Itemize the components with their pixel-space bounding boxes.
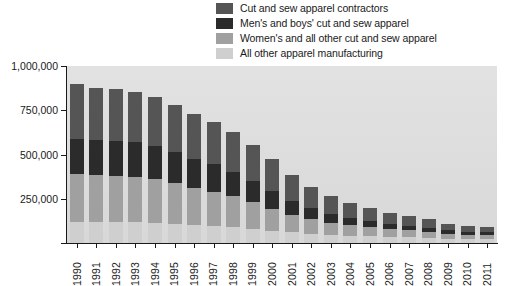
legend-item[interactable]: All other apparel manufacturing xyxy=(216,47,437,60)
stacked-bar[interactable] xyxy=(285,175,299,243)
bar-slot xyxy=(399,66,419,243)
bar-segment xyxy=(402,216,416,226)
bar-segment xyxy=(226,132,240,172)
legend-item-label: All other apparel manufacturing xyxy=(240,47,383,60)
legend-item[interactable]: Cut and sew apparel contractors xyxy=(216,2,437,15)
y-axis-tick xyxy=(61,199,67,200)
bar-slot xyxy=(106,66,126,243)
x-axis-tick xyxy=(233,243,234,248)
x-axis-label-slot: 1992 xyxy=(106,250,126,286)
stacked-bar[interactable] xyxy=(148,97,162,243)
stacked-bar[interactable] xyxy=(265,159,279,243)
x-axis-tick-label: 2007 xyxy=(404,250,415,286)
bar-segment xyxy=(109,141,123,176)
stacked-bar[interactable] xyxy=(422,219,436,243)
x-axis-line xyxy=(66,243,498,244)
bar-segment xyxy=(343,203,357,218)
x-axis-tick xyxy=(487,243,488,248)
stacked-bar[interactable] xyxy=(187,114,201,243)
legend-item[interactable]: Women's and all other cut and sew appare… xyxy=(216,32,437,45)
bar-slot xyxy=(184,66,204,243)
bar-segment xyxy=(383,229,397,237)
bar-slot xyxy=(438,66,458,243)
stacked-bar[interactable] xyxy=(480,227,494,243)
x-axis-tick-label: 2005 xyxy=(365,250,376,286)
stacked-bar[interactable] xyxy=(128,92,142,243)
stacked-bar[interactable] xyxy=(70,84,84,243)
legend-item-label: Men's and boys' cut and sew apparel xyxy=(240,17,409,30)
legend-swatch-icon xyxy=(216,48,233,59)
x-axis-tick-label: 2001 xyxy=(287,250,298,286)
legend-item[interactable]: Men's and boys' cut and sew apparel xyxy=(216,17,437,30)
bar-segment xyxy=(207,122,221,164)
bar-segment xyxy=(168,224,182,243)
x-axis-tick-label: 1995 xyxy=(169,250,180,286)
bar-slot xyxy=(145,66,165,243)
bar-segment xyxy=(304,208,318,219)
bar-slot xyxy=(360,66,380,243)
stacked-bar[interactable] xyxy=(402,216,416,243)
stacked-bar[interactable] xyxy=(226,132,240,243)
stacked-bar[interactable] xyxy=(168,105,182,243)
x-axis-tick-label: 2008 xyxy=(423,250,434,286)
bar-segment xyxy=(207,192,221,227)
bar-segment xyxy=(285,215,299,233)
bar-segment xyxy=(265,159,279,191)
bar-segment xyxy=(89,175,103,222)
stacked-bar[interactable] xyxy=(89,88,103,243)
bar-slot xyxy=(477,66,497,243)
stacked-bar[interactable] xyxy=(207,122,221,243)
stacked-bar[interactable] xyxy=(461,226,475,243)
stacked-bar[interactable] xyxy=(304,187,318,243)
stacked-bar[interactable] xyxy=(363,208,377,243)
bar-slot xyxy=(223,66,243,243)
bar-segment xyxy=(70,222,84,243)
x-axis-tick xyxy=(448,243,449,248)
chart-legend: Cut and sew apparel contractorsMen's and… xyxy=(216,2,437,60)
bar-segment xyxy=(343,218,357,225)
x-axis-label-slot: 2010 xyxy=(458,250,478,286)
bar-segment xyxy=(246,229,260,243)
y-axis-tick xyxy=(61,155,67,156)
y-axis-tick-label: 750,000 xyxy=(20,104,58,116)
x-axis-tick xyxy=(135,243,136,248)
x-axis-label-slot: 2011 xyxy=(477,250,497,286)
y-axis-tick xyxy=(61,66,67,67)
y-axis-tick-label: 250,000 xyxy=(20,193,58,205)
x-axis-label-slot: 2009 xyxy=(438,250,458,286)
bar-segment xyxy=(89,88,103,140)
stacked-bar[interactable] xyxy=(441,224,455,243)
bar-segment xyxy=(343,225,357,235)
bar-segment xyxy=(187,114,201,158)
bar-segment xyxy=(324,235,338,243)
bar-segment xyxy=(324,223,338,235)
bar-segment xyxy=(363,236,377,243)
bar-slot xyxy=(302,66,322,243)
bar-segment xyxy=(246,145,260,181)
bar-slot xyxy=(67,66,87,243)
x-axis-tick xyxy=(77,243,78,248)
x-axis-label-slot: 2008 xyxy=(419,250,439,286)
stacked-bar[interactable] xyxy=(383,213,397,243)
stacked-bar[interactable] xyxy=(324,196,338,243)
stacked-bar[interactable] xyxy=(109,89,123,243)
stacked-bar[interactable] xyxy=(343,203,357,243)
bar-segment xyxy=(70,174,84,222)
x-axis-label-slot: 1994 xyxy=(145,250,165,286)
bar-segment xyxy=(422,219,436,227)
bar-segment xyxy=(226,172,240,197)
x-axis-tick-label: 2006 xyxy=(384,250,395,286)
x-axis-tick-label: 1996 xyxy=(189,250,200,286)
bar-segment xyxy=(109,222,123,243)
x-axis-tick xyxy=(194,243,195,248)
x-axis-tick-label: 2003 xyxy=(326,250,337,286)
bar-segment xyxy=(187,188,201,226)
x-axis-label-slot: 2004 xyxy=(341,250,361,286)
bar-segment xyxy=(304,187,318,208)
stacked-bar[interactable] xyxy=(246,145,260,243)
bar-segment xyxy=(363,208,377,221)
bar-slot xyxy=(341,66,361,243)
x-axis-tick-label: 2010 xyxy=(462,250,473,286)
x-axis-label-slot: 1997 xyxy=(204,250,224,286)
bars-container xyxy=(67,66,497,243)
